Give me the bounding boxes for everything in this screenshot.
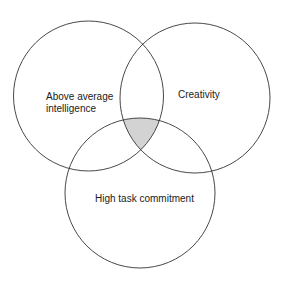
label-high-task-commitment: High task commitment — [95, 193, 194, 205]
label-line: intelligence — [46, 103, 113, 115]
label-line: High task commitment — [95, 193, 194, 205]
label-above-average-intelligence: Above average intelligence — [46, 91, 113, 115]
venn-diagram: Above average intelligence Creativity Hi… — [0, 0, 283, 284]
label-line: Creativity — [178, 89, 220, 101]
label-line: Above average — [46, 91, 113, 103]
venn-svg — [0, 0, 283, 284]
label-creativity: Creativity — [178, 89, 220, 101]
